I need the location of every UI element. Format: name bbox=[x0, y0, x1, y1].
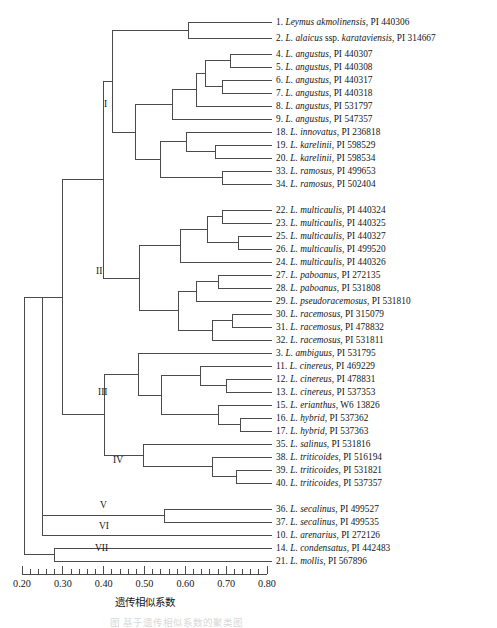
leaf-label-12: 12. L. cinereus, PI 478831 bbox=[276, 374, 375, 384]
axis-tick-6: 0.80 bbox=[258, 578, 276, 589]
leaf-label-34: 34. L. ramosus, PI 502404 bbox=[276, 179, 376, 189]
leaf-label-28: 28. L. paboanus, PI 531808 bbox=[276, 283, 380, 293]
axis-tick-1: 0.30 bbox=[54, 578, 72, 589]
leaf-label-1: 1. Leymus akmolinensis, PI 440306 bbox=[276, 17, 409, 27]
leaf-label-13: 13. L. cinereus, PI 537353 bbox=[276, 387, 375, 397]
leaf-label-16: 16. L. hybrid, PI 537362 bbox=[276, 413, 368, 423]
leaf-label-19: 19. L. karelinii, PI 598529 bbox=[276, 140, 375, 150]
leaf-label-9: 9. L. angustus, PI 547357 bbox=[276, 114, 373, 124]
leaf-label-18: 18. L. innovatus, PI 236818 bbox=[276, 127, 380, 137]
leaf-label-25: 25. L. multicaulis, PI 440327 bbox=[276, 231, 386, 241]
leaf-label-38: 38. L. triticoides, PI 516194 bbox=[276, 452, 382, 462]
group-label-I: I bbox=[104, 99, 107, 109]
leaf-label-17: 17. L. hybrid, PI 537363 bbox=[276, 426, 368, 436]
leaf-label-32: 32. L. racemosus, PI 531811 bbox=[276, 335, 384, 345]
leaf-label-23: 23. L. multicaulis, PI 440325 bbox=[276, 218, 386, 228]
leaf-label-40: 40. L. triticoides, PI 537357 bbox=[276, 478, 382, 488]
leaf-label-24: 24. L. multicaulis, PI 440326 bbox=[276, 257, 386, 267]
leaf-label-35: 35. L. salinus, PI 531816 bbox=[276, 439, 371, 449]
leaf-label-15: 15. L. erianthus, W6 13826 bbox=[276, 400, 380, 410]
leaf-label-29: 29. L. pseudoracemosus, PI 531810 bbox=[276, 296, 411, 306]
leaf-label-37: 37. L. secalinus, PI 499535 bbox=[276, 517, 379, 527]
leaf-label-4: 4. L. angustus, PI 440307 bbox=[276, 49, 373, 59]
axis-tick-3: 0.50 bbox=[136, 578, 154, 589]
axis-tick-5: 0.70 bbox=[217, 578, 235, 589]
leaf-label-20: 20. L. karelinii, PI 598534 bbox=[276, 153, 375, 163]
axis-tick-0: 0.20 bbox=[13, 578, 31, 589]
leaf-label-14: 14. L. condensatus, PI 442483 bbox=[276, 543, 390, 553]
group-label-VII: VII bbox=[95, 543, 108, 553]
axis-tick-2: 0.40 bbox=[95, 578, 113, 589]
leaf-label-8: 8. L. angustus, PI 531797 bbox=[276, 101, 373, 111]
leaf-label-21: 21. L. mollis, PI 567896 bbox=[276, 556, 367, 566]
axis-tick-4: 0.60 bbox=[176, 578, 194, 589]
group-label-III: III bbox=[98, 387, 108, 397]
group-label-VI: VI bbox=[99, 521, 109, 531]
leaf-label-3: 3. L. ambiguus, PI 531795 bbox=[276, 348, 376, 358]
leaf-label-11: 11. L. cinereus, PI 469229 bbox=[276, 361, 375, 371]
axis-title: 遗传相似系数 bbox=[115, 596, 175, 608]
group-label-V: V bbox=[100, 500, 107, 510]
leaf-label-27: 27. L. paboanus, PI 272135 bbox=[276, 270, 380, 280]
leaf-label-2: 2. L. alaicus ssp. karataviensis, PI 314… bbox=[276, 33, 436, 43]
figure-caption: 图 基于遗传相似系数的聚类图 bbox=[110, 617, 243, 628]
leaf-label-39: 39. L. triticoides, PI 531821 bbox=[276, 465, 382, 475]
group-label-II: II bbox=[96, 266, 102, 276]
group-label-IV: IV bbox=[113, 455, 123, 465]
leaf-label-5: 5. L. angustus, PI 440308 bbox=[276, 62, 373, 72]
leaf-label-33: 33. L. ramosus, PI 499653 bbox=[276, 166, 376, 176]
leaf-label-31: 31. L. racemosus, PI 478832 bbox=[276, 322, 384, 332]
leaf-label-7: 7. L. angustus, PI 440318 bbox=[276, 88, 373, 98]
leaf-label-30: 30. L. racemosus, PI 315079 bbox=[276, 309, 384, 319]
leaf-label-22: 22. L. multicaulis, PI 440324 bbox=[276, 205, 386, 215]
leaf-label-6: 6. L. angustus, PI 440317 bbox=[276, 75, 373, 85]
leaf-label-10: 10. L. arenarius, PI 272126 bbox=[276, 530, 380, 540]
leaf-label-36: 36. L. secalinus, PI 499527 bbox=[276, 504, 379, 514]
leaf-label-26: 26. L. multicaulis, PI 499520 bbox=[276, 244, 386, 254]
